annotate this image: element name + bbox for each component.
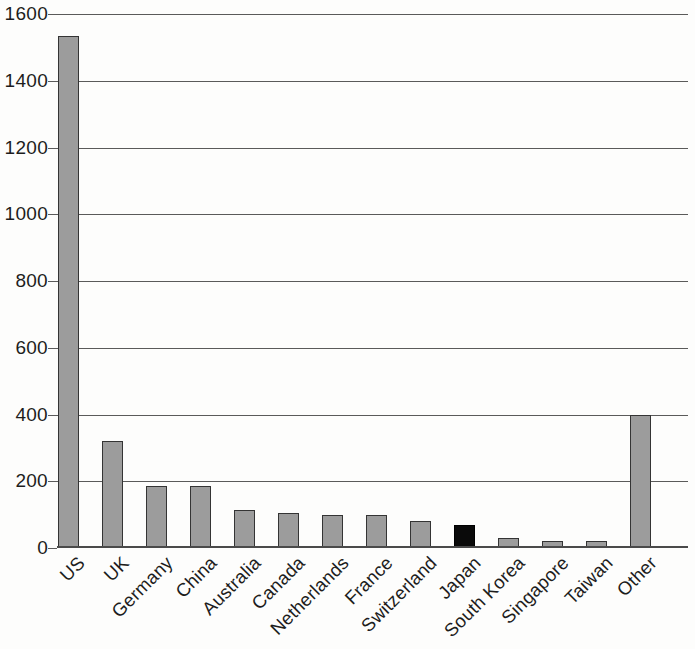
x-axis-label-text: US bbox=[56, 552, 90, 586]
y-axis-tick-label: 800 bbox=[15, 270, 48, 292]
y-axis-tick-label: 1000 bbox=[5, 203, 48, 225]
bar-chart: 02004006008001000120014001600 USUKGerman… bbox=[0, 0, 695, 649]
y-axis-tick-mark bbox=[48, 148, 57, 149]
y-axis-tick-label: 1600 bbox=[5, 3, 48, 25]
y-axis-tick-label: 200 bbox=[15, 470, 48, 492]
y-axis-tick-mark bbox=[48, 214, 57, 215]
y-axis-tick-label: 1200 bbox=[5, 137, 48, 159]
y-axis-tick-mark bbox=[48, 281, 57, 282]
x-axis-label-text: UK bbox=[100, 552, 134, 586]
bar-us bbox=[58, 36, 79, 548]
y-axis-tick-label: 600 bbox=[15, 337, 48, 359]
y-axis-tick-mark bbox=[48, 14, 57, 15]
y-axis-tick-mark bbox=[48, 481, 57, 482]
bar-germany bbox=[146, 486, 167, 548]
y-axis-tick-label: 1400 bbox=[5, 70, 48, 92]
y-axis-tick-mark bbox=[48, 548, 57, 549]
y-axis-tick-mark bbox=[48, 81, 57, 82]
y-axis-tick-mark bbox=[48, 415, 57, 416]
bar-uk bbox=[102, 441, 123, 548]
bars-group bbox=[57, 14, 688, 548]
y-axis-tick-mark bbox=[48, 348, 57, 349]
plot-area: 02004006008001000120014001600 bbox=[57, 14, 688, 548]
x-axis-labels-group: USUKGermanyChinaAustraliaCanadaNetherlan… bbox=[57, 552, 688, 649]
y-axis-tick-label: 0 bbox=[37, 537, 48, 559]
y-axis-tick-label: 400 bbox=[15, 404, 48, 426]
